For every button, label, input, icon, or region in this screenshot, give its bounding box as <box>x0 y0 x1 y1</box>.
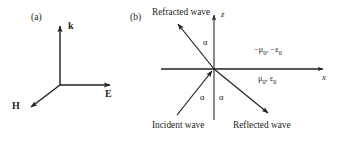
ray-refracted <box>178 24 214 69</box>
axis-z-label: z <box>221 10 225 19</box>
panel-b-letter: (b) <box>130 13 141 23</box>
vector-h-arrow <box>31 85 60 107</box>
panel-a-vectors <box>31 26 110 107</box>
medium-lower-eps-sub: 0 <box>273 78 276 85</box>
vector-e-label: E <box>105 89 112 99</box>
ray-incident <box>177 71 212 115</box>
angle-alpha-reflected: α <box>219 93 224 102</box>
label-refracted-wave: Refracted wave <box>152 8 210 17</box>
label-reflected-wave: Reflected wave <box>233 121 291 130</box>
angle-alpha-incident: α <box>200 93 205 102</box>
panel-a-letter: (a) <box>31 13 42 23</box>
vector-k-label: k <box>68 21 74 31</box>
medium-lower-params: μ0, ε0 <box>258 75 276 85</box>
figure-container: (a) k E H (b) z x Refracted wave Inciden… <box>0 0 337 142</box>
angle-alpha-refracted: α <box>203 38 208 47</box>
label-incident-wave: Incident wave <box>152 121 204 130</box>
medium-upper-eps-sub: 0 <box>279 49 282 56</box>
medium-upper-eps: −ε <box>271 45 279 54</box>
medium-upper-params: −μ0, −ε0 <box>254 46 282 56</box>
vector-h-label: H <box>12 101 20 111</box>
medium-upper-mu: −μ <box>254 45 263 54</box>
axis-x-label: x <box>322 73 326 82</box>
